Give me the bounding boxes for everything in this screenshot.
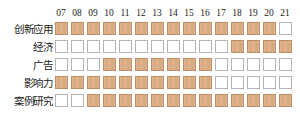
matrix-cell	[181, 73, 197, 91]
cell-filled-icon	[263, 94, 276, 107]
cell-filled-icon	[279, 40, 292, 53]
cell-empty-icon	[183, 40, 196, 53]
cell-filled-icon	[87, 94, 100, 107]
column-header-14: 14	[165, 4, 181, 19]
cell-filled-icon	[167, 22, 180, 35]
matrix-cell	[197, 73, 213, 91]
matrix-cell	[229, 73, 245, 91]
cell-filled-icon	[167, 94, 180, 107]
matrix-cell	[197, 37, 213, 55]
column-header-09: 09	[85, 4, 101, 19]
matrix-corner	[0, 4, 53, 19]
cell-empty-icon	[71, 94, 84, 107]
column-header-07: 07	[53, 4, 69, 19]
row-label-2: 广告	[0, 55, 53, 73]
matrix-cell	[181, 91, 197, 109]
cell-filled-icon	[215, 22, 228, 35]
table-row: 经济	[0, 37, 293, 55]
matrix-cell	[117, 73, 133, 91]
cell-filled-icon	[199, 58, 212, 71]
cell-filled-icon	[103, 58, 116, 71]
column-header-08: 08	[69, 4, 85, 19]
matrix-cell	[101, 73, 117, 91]
matrix-cell	[117, 91, 133, 109]
matrix-cell	[261, 91, 277, 109]
cell-filled-icon	[215, 94, 228, 107]
matrix-cell	[53, 19, 69, 37]
matrix-cell	[149, 73, 165, 91]
cell-filled-icon	[151, 22, 164, 35]
cell-filled-icon	[183, 94, 196, 107]
matrix-body: 创新应用经济广告影响力案例研究	[0, 19, 293, 109]
matrix-cell	[213, 37, 229, 55]
cell-empty-icon	[263, 58, 276, 71]
matrix-cell	[53, 91, 69, 109]
column-header-10: 10	[101, 4, 117, 19]
matrix-cell	[101, 37, 117, 55]
matrix-cell	[85, 73, 101, 91]
cell-empty-icon	[87, 40, 100, 53]
presence-matrix: 070809101112131415161718192021 创新应用经济广告影…	[0, 0, 300, 119]
cell-empty-icon	[151, 40, 164, 53]
cell-empty-icon	[231, 58, 244, 71]
matrix-cell	[133, 91, 149, 109]
row-label-4: 案例研究	[0, 91, 53, 109]
cell-filled-icon	[151, 58, 164, 71]
matrix-cell	[117, 55, 133, 73]
matrix-cell	[85, 19, 101, 37]
matrix-cell	[149, 91, 165, 109]
matrix-cell	[85, 55, 101, 73]
cell-filled-icon	[55, 76, 68, 89]
matrix-cell	[197, 91, 213, 109]
column-header-11: 11	[117, 4, 133, 19]
column-header-21: 21	[277, 4, 293, 19]
matrix-cell	[213, 55, 229, 73]
cell-filled-icon	[87, 76, 100, 89]
matrix-cell	[69, 55, 85, 73]
column-header-17: 17	[213, 4, 229, 19]
matrix-cell	[133, 55, 149, 73]
cell-filled-icon	[183, 22, 196, 35]
column-header-18: 18	[229, 4, 245, 19]
cell-empty-icon	[279, 58, 292, 71]
cell-empty-icon	[55, 58, 68, 71]
matrix-cell	[53, 73, 69, 91]
matrix-cell	[133, 19, 149, 37]
matrix-cell	[101, 91, 117, 109]
matrix-cell	[181, 37, 197, 55]
matrix-cell	[165, 91, 181, 109]
cell-filled-icon	[151, 94, 164, 107]
matrix-cell	[117, 19, 133, 37]
cell-filled-icon	[55, 22, 68, 35]
cell-empty-icon	[167, 40, 180, 53]
cell-filled-icon	[135, 76, 148, 89]
matrix-cell	[69, 19, 85, 37]
matrix-cell	[165, 55, 181, 73]
cell-empty-icon	[55, 40, 68, 53]
table-row: 案例研究	[0, 91, 293, 109]
column-header-19: 19	[245, 4, 261, 19]
cell-filled-icon	[231, 94, 244, 107]
cell-filled-icon	[263, 40, 276, 53]
matrix-cell	[229, 37, 245, 55]
cell-filled-icon	[199, 22, 212, 35]
matrix-cell	[149, 19, 165, 37]
cell-empty-icon	[135, 40, 148, 53]
cell-empty-icon	[247, 58, 260, 71]
matrix-cell	[213, 19, 229, 37]
cell-filled-icon	[183, 58, 196, 71]
matrix-cell	[277, 55, 293, 73]
matrix-cell	[117, 37, 133, 55]
cell-filled-icon	[119, 58, 132, 71]
matrix-cell	[229, 91, 245, 109]
cell-filled-icon	[247, 22, 260, 35]
cell-filled-icon	[103, 94, 116, 107]
matrix-cell	[181, 19, 197, 37]
matrix-cell	[149, 55, 165, 73]
cell-empty-icon	[199, 40, 212, 53]
matrix-cell	[149, 37, 165, 55]
cell-empty-icon	[55, 94, 68, 107]
matrix-cell	[165, 73, 181, 91]
matrix-cell	[165, 37, 181, 55]
cell-filled-icon	[231, 22, 244, 35]
